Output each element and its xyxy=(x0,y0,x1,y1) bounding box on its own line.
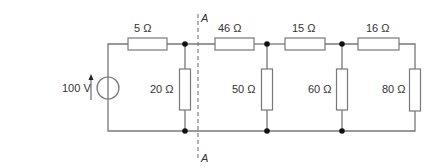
resistor-80: 80 Ω xyxy=(382,69,421,111)
arrow-up-icon xyxy=(89,74,94,80)
svg-text:20 Ω: 20 Ω xyxy=(150,83,174,95)
section-label-top: A xyxy=(200,12,208,24)
resistor-46: 46 Ω xyxy=(215,22,254,50)
svg-text:46 Ω: 46 Ω xyxy=(218,22,242,34)
section-label-bottom: A xyxy=(200,152,208,164)
resistor-20: 20 Ω xyxy=(150,69,191,110)
circuit-diagram: 100 V 5 Ω 46 Ω 15 Ω 16 Ω 20 Ω 50 Ω 60 Ω … xyxy=(0,0,446,168)
svg-text:50 Ω: 50 Ω xyxy=(232,83,256,95)
svg-text:15 Ω: 15 Ω xyxy=(292,22,316,34)
svg-text:16 Ω: 16 Ω xyxy=(366,22,390,34)
svg-text:80 Ω: 80 Ω xyxy=(382,83,406,95)
resistor-15: 15 Ω xyxy=(285,22,325,50)
resistor-50: 50 Ω xyxy=(232,69,273,110)
resistor-60: 60 Ω xyxy=(308,69,348,110)
resistor-16: 16 Ω xyxy=(358,22,399,50)
section-line-a: A A xyxy=(198,12,208,164)
svg-text:60 Ω: 60 Ω xyxy=(308,83,332,95)
svg-text:5 Ω: 5 Ω xyxy=(134,22,151,34)
resistor-5: 5 Ω xyxy=(128,22,167,50)
voltage-source: 100 V xyxy=(62,74,119,100)
source-label: 100 V xyxy=(62,82,91,94)
